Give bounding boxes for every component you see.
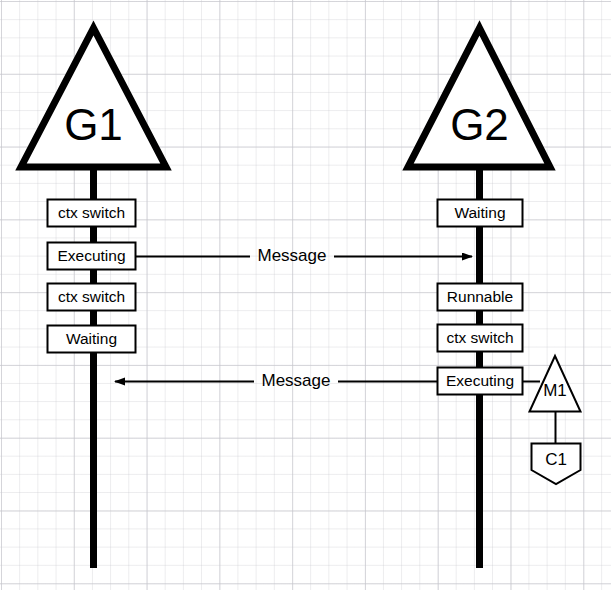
g2-state-waiting[interactable]: Waiting xyxy=(438,200,523,227)
message-arrow-1[interactable]: Message xyxy=(136,246,472,265)
node-c1[interactable]: C1 xyxy=(532,412,581,485)
state-label: ctx switch xyxy=(446,329,513,346)
g2-state-runnable[interactable]: Runnable xyxy=(438,284,523,311)
g2-state-ctx-switch[interactable]: ctx switch xyxy=(438,325,523,352)
g1-state-executing[interactable]: Executing xyxy=(48,243,136,270)
message-arrow-1-label: Message xyxy=(258,246,327,265)
state-label: Executing xyxy=(446,372,514,389)
c1-label: C1 xyxy=(545,450,567,469)
message-arrow-2[interactable]: Message xyxy=(115,371,437,390)
state-label: Waiting xyxy=(66,330,117,347)
state-label: Executing xyxy=(57,247,125,264)
message-arrow-2-label: Message xyxy=(262,371,331,390)
g1-actor-label: G1 xyxy=(64,100,123,149)
node-m1[interactable]: M1 xyxy=(522,356,581,412)
g1-state-ctx-switch-2[interactable]: ctx switch xyxy=(48,284,136,311)
state-label: Waiting xyxy=(454,204,505,221)
state-label: Runnable xyxy=(447,288,513,305)
state-label: ctx switch xyxy=(58,288,125,305)
g2-actor-label: G2 xyxy=(450,100,509,149)
state-label: ctx switch xyxy=(58,204,125,221)
diagram-svg: G1 ctx switch Executing ctx switch Waiti… xyxy=(0,0,611,590)
g1-state-waiting[interactable]: Waiting xyxy=(48,326,136,353)
g2-state-executing[interactable]: Executing xyxy=(438,368,523,395)
diagram-canvas: G1 ctx switch Executing ctx switch Waiti… xyxy=(0,0,611,590)
m1-label: M1 xyxy=(543,381,567,400)
g1-state-ctx-switch-1[interactable]: ctx switch xyxy=(48,200,136,227)
